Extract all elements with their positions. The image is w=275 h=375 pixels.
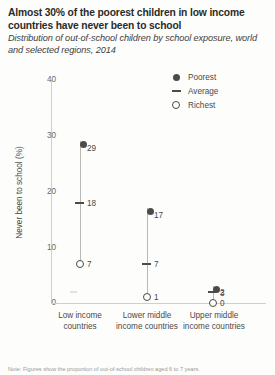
x-axis-line bbox=[51, 303, 266, 304]
filled-circle-icon bbox=[147, 208, 154, 215]
dash-icon bbox=[75, 202, 84, 204]
filled-circle-icon bbox=[168, 74, 184, 81]
data-value-label: 29 bbox=[87, 144, 96, 153]
y-tick-10: 10 bbox=[32, 243, 56, 252]
poorest-marker[interactable]: 29 bbox=[80, 141, 87, 148]
legend-item-richest[interactable]: Richest bbox=[168, 98, 218, 112]
open-circle-icon bbox=[76, 260, 84, 268]
legend-label-average: Average bbox=[188, 87, 218, 96]
open-circle-icon bbox=[168, 101, 184, 109]
data-value-label: 0 bbox=[220, 299, 225, 308]
y-axis-label: Never been to school (%) bbox=[15, 128, 24, 258]
dash-icon bbox=[142, 263, 151, 265]
x-category-upper-middle-income: Upper middle income countries bbox=[180, 310, 248, 332]
data-value-label: 17 bbox=[154, 211, 163, 220]
data-value-label: 7 bbox=[154, 259, 159, 268]
dash-icon bbox=[208, 291, 217, 293]
chart-subtitle: Distribution of out-of-school children b… bbox=[8, 33, 267, 57]
ghost-marker bbox=[70, 291, 77, 293]
poorest-marker[interactable]: 17 bbox=[147, 208, 154, 215]
data-value-label: 7 bbox=[87, 259, 92, 268]
legend-label-richest: Richest bbox=[188, 101, 215, 110]
filled-circle-icon bbox=[80, 141, 87, 148]
legend-item-average[interactable]: Average bbox=[168, 84, 218, 98]
legend-item-poorest[interactable]: Poorest bbox=[168, 70, 218, 84]
chart-legend: Poorest Average Richest bbox=[168, 70, 218, 112]
open-circle-icon bbox=[143, 293, 151, 301]
y-tick-20: 20 bbox=[32, 187, 56, 196]
y-tick-40: 40 bbox=[32, 75, 56, 84]
data-value-label: 2 bbox=[220, 287, 225, 296]
range-stem bbox=[147, 208, 148, 297]
dash-icon bbox=[168, 90, 184, 92]
y-tick-30: 30 bbox=[32, 131, 56, 140]
plot-area: Poorest Average Richest Never been to sc… bbox=[0, 58, 275, 358]
x-category-lower-middle-income: Lower middle income countries bbox=[113, 310, 181, 332]
chart-figure: Almost 30% of the poorest children in lo… bbox=[0, 0, 275, 375]
legend-label-poorest: Poorest bbox=[188, 73, 216, 82]
x-category-low-income: Low income countries bbox=[45, 310, 115, 332]
chart-footnote: Note: Figures show the proportion of out… bbox=[8, 366, 270, 375]
data-value-label: 18 bbox=[87, 198, 96, 207]
open-circle-icon bbox=[209, 299, 217, 307]
data-value-label: 1 bbox=[154, 293, 159, 302]
chart-title: Almost 30% of the poorest children in lo… bbox=[8, 6, 267, 32]
